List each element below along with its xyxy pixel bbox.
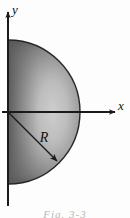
x-axis-label: x xyxy=(117,98,124,113)
bottom-edge-shade xyxy=(4,150,84,186)
figure-caption: Fig. 3-3 xyxy=(0,204,130,218)
figure-container: R y x Fig. 3-3 xyxy=(0,0,130,218)
top-edge-shade xyxy=(4,38,84,74)
semicircle-diagram: R y x xyxy=(0,0,130,218)
radius-label: R xyxy=(39,130,49,145)
y-axis-label: y xyxy=(10,2,18,17)
